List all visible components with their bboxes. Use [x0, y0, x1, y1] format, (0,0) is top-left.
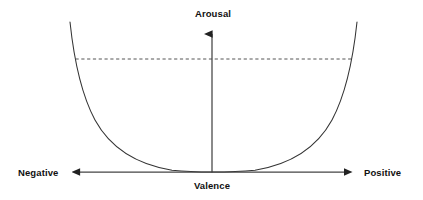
- valence-arousal-diagram: Arousal Valence Negative Positive: [0, 0, 423, 200]
- curve-right-branch: [212, 22, 357, 172]
- valence-positive-label: Positive: [364, 167, 401, 178]
- valence-arousal-plot: Arousal Valence Negative Positive: [0, 0, 423, 200]
- valence-negative-label: Negative: [18, 167, 58, 178]
- valence-axis-label: Valence: [194, 180, 230, 191]
- curve-left-branch: [70, 22, 212, 172]
- arousal-axis-label: Arousal: [195, 8, 231, 19]
